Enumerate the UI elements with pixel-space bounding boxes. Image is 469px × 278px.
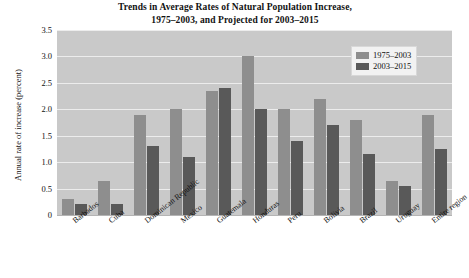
chart-title-line-1: Trends in Average Rates of Natural Popul…: [60, 1, 410, 14]
y-tick-label: 1.0: [41, 158, 52, 167]
bar: [350, 120, 362, 215]
bar-group: [206, 30, 231, 215]
bar-group: [134, 30, 159, 215]
bar: [422, 115, 434, 215]
bar-group: [422, 30, 447, 215]
bar-group: [62, 30, 87, 215]
y-tick-label: 0.5: [41, 185, 52, 194]
bar: [147, 146, 159, 215]
chart-title: Trends in Average Rates of Natural Popul…: [60, 1, 410, 26]
bar: [327, 125, 339, 215]
legend-item: 1975–2003: [356, 50, 411, 61]
bar: [291, 141, 303, 215]
bar: [314, 99, 326, 215]
bar: [62, 199, 74, 215]
y-axis: Annual rate of increase (percent) 00.51.…: [0, 0, 57, 278]
bar: [386, 181, 398, 215]
bar: [278, 109, 290, 215]
legend-label: 2003–2015: [373, 62, 411, 71]
bar: [219, 88, 231, 215]
bar: [255, 109, 267, 215]
legend-swatch: [356, 52, 369, 59]
y-tick-label: 1.5: [41, 132, 52, 141]
y-tick-label: 2.5: [41, 79, 52, 88]
y-tick-label: 3.0: [41, 52, 52, 61]
bar-group: [278, 30, 303, 215]
legend-item: 2003–2015: [356, 61, 411, 72]
chart-legend: 1975–20032003–2015: [351, 46, 417, 76]
bar: [242, 56, 254, 215]
bar: [98, 181, 110, 215]
legend-swatch: [356, 63, 369, 70]
bar: [134, 115, 146, 215]
bar-group: [242, 30, 267, 215]
bar-group: [98, 30, 123, 215]
bar-group: [314, 30, 339, 215]
y-tick-label: 2.0: [41, 105, 52, 114]
bar: [206, 91, 218, 215]
x-axis: BarbadosCubaDominican RepublicMexicoGuat…: [57, 216, 467, 278]
y-tick-label: 3.5: [41, 26, 52, 35]
chart-title-line-2: 1975–2003, and Projected for 2003–2015: [60, 14, 410, 27]
y-axis-title: Annual rate of increase (percent): [13, 45, 23, 205]
y-tick-label: 0: [48, 211, 52, 220]
legend-label: 1975–2003: [373, 51, 411, 60]
